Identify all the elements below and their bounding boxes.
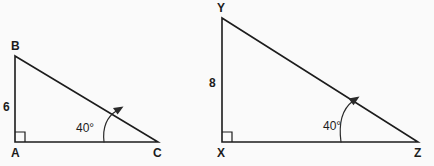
triangle-xyz-outline [222,18,418,142]
vertex-label-z: Z [414,147,421,159]
angle-arc-z [340,101,353,142]
diagram-canvas [0,0,434,166]
side-label-ab-length: 6 [3,101,10,113]
vertex-label-b: B [11,40,20,52]
vertex-label-a: A [11,147,20,159]
triangle-xyz-group [222,18,418,142]
angle-arrow-head-c [113,107,124,115]
right-angle-marker-x [222,132,232,142]
vertex-label-c: C [153,147,162,159]
angle-label-z: 40° [323,120,341,132]
angle-label-c: 40° [76,122,94,134]
geometry-figure: B A C 6 40° Y X Z 8 40° [0,0,434,166]
side-label-xy-length: 8 [209,77,216,89]
vertex-label-x: X [217,147,225,159]
right-angle-marker-a [15,132,25,142]
vertex-label-y: Y [217,2,225,14]
